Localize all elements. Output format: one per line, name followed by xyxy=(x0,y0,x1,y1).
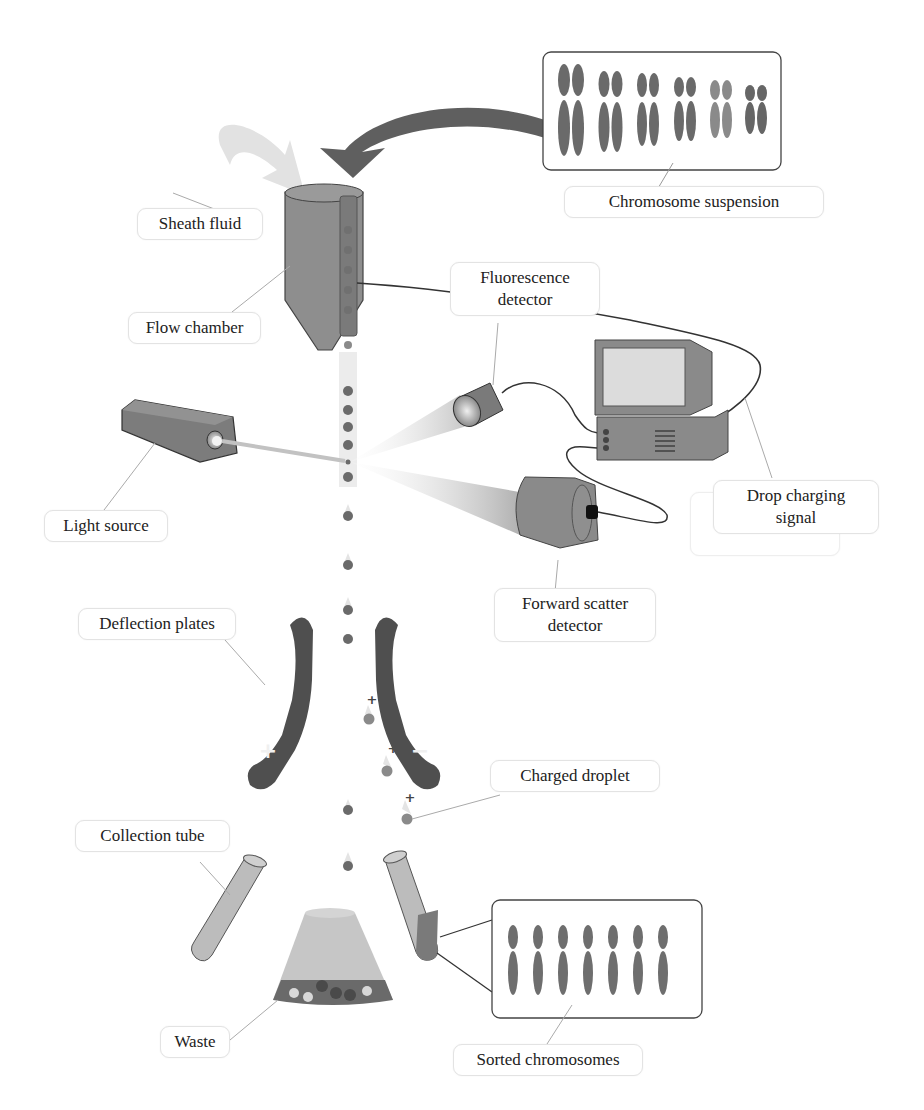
label-sheath-fluid: Sheath fluid xyxy=(137,208,263,240)
laser-beam xyxy=(222,441,345,461)
deflection-plate-positive xyxy=(248,618,313,790)
falling-droplets xyxy=(343,504,353,871)
light-source xyxy=(122,400,237,462)
label-sorted-chromosomes: Sorted chromosomes xyxy=(453,1044,643,1076)
label-line: Fluorescence xyxy=(461,267,589,289)
collection-tube-sorted xyxy=(382,849,438,961)
forward-scatter-detector xyxy=(516,477,598,548)
collection-tube-left xyxy=(191,853,268,961)
label-line: signal xyxy=(724,507,868,529)
label-flow-chamber: Flow chamber xyxy=(128,312,261,344)
label-drop-charging-signal: Drop charging signal xyxy=(713,480,879,534)
sheath-fluid-arrow xyxy=(219,125,305,195)
label-light-source: Light source xyxy=(44,510,168,542)
label-deflection-plates: Deflection plates xyxy=(78,608,236,640)
sample-injection-arrow xyxy=(320,108,545,178)
label-forward-scatter-detector: Forward scatter detector xyxy=(494,588,656,642)
chromosome-suspension-box xyxy=(543,52,781,170)
label-waste: Waste xyxy=(160,1026,230,1058)
waste-container xyxy=(273,908,393,1005)
label-line: detector xyxy=(461,289,589,311)
label-line: detector xyxy=(505,615,645,637)
label-fluorescence-detector: Fluorescence detector xyxy=(450,262,600,316)
minus-sign: − xyxy=(411,738,429,763)
flow-chamber xyxy=(285,184,363,350)
label-collection-tube: Collection tube xyxy=(75,820,230,852)
label-line: Drop charging xyxy=(724,485,868,507)
fluid-stream xyxy=(339,352,357,487)
label-charged-droplet: Charged droplet xyxy=(490,760,660,792)
svg-text:+: + xyxy=(367,692,378,707)
sorted-chromosomes-box xyxy=(492,900,702,1018)
plus-sign: + xyxy=(259,738,277,763)
label-line: Forward scatter xyxy=(505,593,645,615)
label-chromosome-suspension: Chromosome suspension xyxy=(564,186,824,218)
computer xyxy=(595,340,728,460)
svg-text:+: + xyxy=(405,790,416,805)
fluorescence-beam xyxy=(350,395,470,462)
forward-scatter-beam xyxy=(350,462,525,535)
